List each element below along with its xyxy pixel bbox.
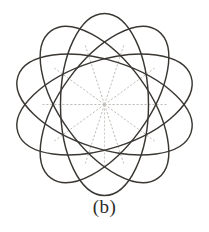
spoke-line-72deg [105, 46, 124, 105]
spoke-line-108deg [85, 46, 104, 105]
rosette-diagram [0, 0, 209, 209]
spoke-line-252deg [85, 105, 104, 164]
figure-caption: (b) [0, 196, 209, 218]
spoke-line-288deg [105, 105, 124, 164]
figure-container: (b) [0, 0, 209, 232]
